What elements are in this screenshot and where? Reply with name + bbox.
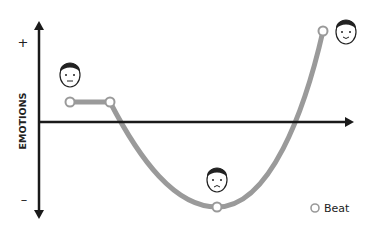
- y-axis: [34, 21, 44, 219]
- legend-beat-marker-icon: [311, 204, 319, 212]
- beat-1: [66, 98, 75, 107]
- happy-face-icon: [336, 20, 356, 44]
- y-axis-label: EMOTIONS: [17, 92, 28, 149]
- y-axis-plus: +: [18, 35, 29, 50]
- emotion-curve: [70, 31, 323, 207]
- beat-markers: [66, 27, 328, 212]
- legend: Beat: [311, 202, 350, 215]
- story-arc-diagram: + – EMOTIONS Beat: [0, 0, 375, 225]
- neutral-face-icon: [60, 63, 80, 87]
- sad-face-icon: [207, 168, 227, 192]
- x-axis: [39, 117, 354, 127]
- beat-3: [213, 203, 222, 212]
- beat-2: [106, 98, 115, 107]
- y-axis-minus: –: [21, 192, 28, 207]
- legend-beat-label: Beat: [324, 202, 350, 215]
- beat-4: [319, 27, 328, 36]
